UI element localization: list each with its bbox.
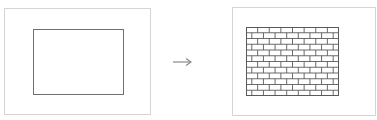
source-panel	[4, 8, 151, 115]
plain-rectangle	[33, 29, 124, 95]
result-panel	[232, 7, 376, 116]
right-arrow-icon	[172, 56, 194, 68]
brick-pattern-rectangle	[246, 27, 339, 96]
